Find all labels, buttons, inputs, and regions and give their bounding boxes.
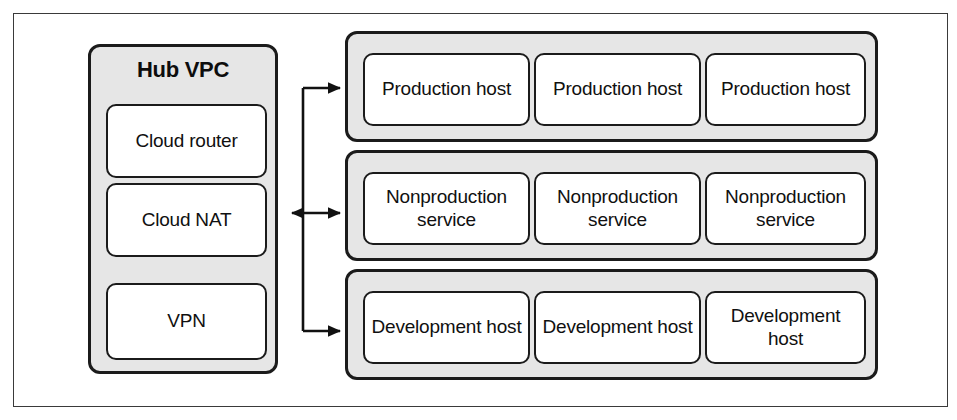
node-cloud-router[interactable]: Cloud router (106, 104, 267, 178)
node-development-host-2[interactable]: Development host (534, 291, 701, 364)
node-nonproduction-service-1[interactable]: Nonproduction service (363, 172, 530, 245)
development-group-panel[interactable]: Development host Development host Develo… (345, 269, 878, 380)
node-development-host-3[interactable]: Development host (705, 291, 866, 364)
node-development-host-1[interactable]: Development host (363, 291, 530, 364)
network-diagram: Hub VPC Cloud router Cloud NAT VPN Produ… (0, 0, 957, 420)
hub-vpc-panel[interactable]: Hub VPC Cloud router Cloud NAT VPN (88, 44, 278, 374)
node-production-host-1[interactable]: Production host (363, 53, 530, 126)
node-nonproduction-service-2[interactable]: Nonproduction service (534, 172, 701, 245)
nonproduction-group-panel[interactable]: Nonproduction service Nonproduction serv… (345, 150, 878, 261)
node-production-host-3[interactable]: Production host (705, 53, 866, 126)
node-nonproduction-service-3[interactable]: Nonproduction service (705, 172, 866, 245)
hub-vpc-title: Hub VPC (91, 57, 275, 83)
production-group-panel[interactable]: Production host Production host Producti… (345, 31, 878, 142)
node-cloud-nat[interactable]: Cloud NAT (106, 183, 267, 257)
node-production-host-2[interactable]: Production host (534, 53, 701, 126)
node-vpn[interactable]: VPN (106, 283, 267, 360)
